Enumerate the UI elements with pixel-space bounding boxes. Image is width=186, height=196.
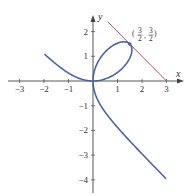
x-tick-label: 3 xyxy=(164,84,169,94)
point-annotation: ( 3 2 , 3 2 ) xyxy=(132,26,157,43)
y-tick-label: −1 xyxy=(78,101,88,111)
annot-comma: , xyxy=(144,31,146,40)
x-axis-label: x xyxy=(175,68,181,79)
annot-den1: 2 xyxy=(138,34,142,43)
y-tick-label: 1 xyxy=(84,51,89,61)
axes: x y xyxy=(8,11,184,193)
x-tick-label: −2 xyxy=(39,84,49,94)
y-axis-label: y xyxy=(97,11,103,22)
x-tick-label: −1 xyxy=(64,84,74,94)
tangent-point-marker xyxy=(128,42,132,46)
y-tick-label: −3 xyxy=(78,150,88,160)
annot-open-paren: ( xyxy=(132,29,135,38)
y-tick-label: −2 xyxy=(78,125,88,135)
ticks: −3−2−1123−4−3−2−112 xyxy=(15,27,170,185)
x-axis-arrow-icon xyxy=(177,79,184,84)
y-axis-arrow-icon xyxy=(91,15,96,22)
y-tick-label: −4 xyxy=(78,175,88,185)
x-tick-label: 2 xyxy=(140,84,145,94)
x-tick-label: −3 xyxy=(15,84,25,94)
y-tick-label: 2 xyxy=(84,27,89,37)
x-tick-label: 1 xyxy=(115,84,120,94)
annot-den2: 2 xyxy=(149,34,153,43)
annot-close-paren: ) xyxy=(154,29,157,38)
folium-plot: x y −3−2−1123−4−3−2−112 ( 3 2 , 3 2 ) xyxy=(0,0,186,196)
